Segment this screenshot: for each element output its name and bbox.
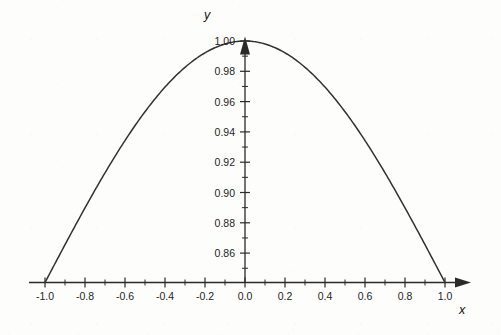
y-tick-label: 0.98 bbox=[215, 65, 236, 77]
y-tick-label: 0.94 bbox=[215, 126, 236, 138]
x-tick-label: -0.4 bbox=[156, 290, 174, 302]
x-tick-label: -0.2 bbox=[196, 290, 214, 302]
chart-figure: -1.0-0.8-0.6-0.4-0.20.00.20.40.60.81.0 0… bbox=[0, 0, 501, 335]
y-tick-label: 0.96 bbox=[215, 96, 236, 108]
x-tick-label: 1.0 bbox=[438, 290, 453, 302]
x-tick-label: 0.6 bbox=[358, 290, 373, 302]
x-axis-title: x bbox=[458, 303, 466, 317]
y-tick-label: 1.00 bbox=[215, 35, 236, 47]
y-axis-title: y bbox=[203, 8, 211, 22]
y-tick-label: 0.90 bbox=[215, 187, 236, 199]
chart-canvas: -1.0-0.8-0.6-0.4-0.20.00.20.40.60.81.0 0… bbox=[0, 0, 501, 335]
x-tick-label: 0.4 bbox=[318, 290, 333, 302]
x-tick-label: 0.2 bbox=[278, 290, 293, 302]
x-axis-arrow-icon bbox=[455, 277, 471, 287]
y-axis-tick-labels: 0.860.880.900.920.940.960.981.00 bbox=[215, 35, 236, 259]
y-tick-label: 0.92 bbox=[215, 156, 236, 168]
x-tick-label: -0.8 bbox=[76, 290, 94, 302]
x-axis-tick-labels: -1.0-0.8-0.6-0.4-0.20.00.20.40.60.81.0 bbox=[36, 290, 452, 302]
y-tick-label: 0.86 bbox=[215, 247, 236, 259]
x-tick-label: 0.8 bbox=[398, 290, 413, 302]
x-tick-label: -1.0 bbox=[36, 290, 54, 302]
x-tick-label: -0.6 bbox=[116, 290, 134, 302]
y-tick-label: 0.88 bbox=[215, 217, 236, 229]
y-axis-arrow-icon bbox=[240, 36, 250, 54]
x-tick-label: 0.0 bbox=[238, 290, 253, 302]
